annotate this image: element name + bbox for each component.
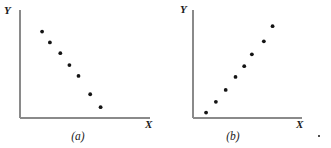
- plot-area-b: [165, 0, 331, 148]
- data-point: [262, 39, 266, 43]
- data-point: [58, 51, 62, 55]
- data-point: [88, 92, 92, 96]
- data-point: [77, 74, 81, 78]
- data-point: [99, 105, 103, 109]
- data-point: [234, 75, 238, 79]
- data-point: [242, 64, 246, 68]
- plot-area-a: [0, 0, 165, 148]
- data-point: [40, 30, 44, 34]
- x-axis-label-a: X: [145, 119, 152, 130]
- data-point: [68, 63, 72, 67]
- stray-period-mark: [318, 135, 320, 137]
- axes-and-points-a: [0, 0, 165, 148]
- scatterplot-figure: Y X (a) Y X (b): [0, 0, 331, 148]
- data-point: [224, 88, 228, 92]
- data-point: [250, 52, 254, 56]
- panel-b: Y X (b): [165, 0, 331, 148]
- x-axis-label-b: X: [296, 119, 303, 130]
- y-axis-label-b: Y: [180, 4, 187, 15]
- data-point: [271, 24, 275, 28]
- y-axis-label-a: Y: [4, 5, 11, 16]
- panel-a: Y X (a): [0, 0, 165, 148]
- axes-and-points-b: [165, 0, 331, 148]
- panel-caption-b: (b): [203, 131, 263, 143]
- data-point: [204, 111, 208, 115]
- panel-caption-a: (a): [48, 131, 108, 143]
- data-point: [214, 100, 218, 104]
- data-point: [48, 41, 52, 45]
